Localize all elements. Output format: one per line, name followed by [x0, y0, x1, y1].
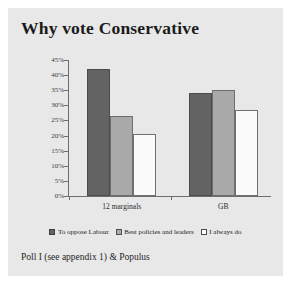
x-axis-line — [68, 196, 271, 197]
y-axis-tick-mark — [64, 196, 68, 197]
y-axis-tick-mark — [64, 60, 68, 61]
y-axis-tick-label: 35% — [24, 86, 64, 94]
legend-swatch-icon — [201, 229, 207, 235]
legend-swatch-icon — [49, 229, 55, 235]
bar-0-group-0 — [87, 69, 110, 196]
y-axis-tick-label: 45% — [24, 56, 64, 64]
figure-caption: Poll I (see appendix 1) & Populus — [21, 252, 150, 262]
bars-area — [69, 60, 271, 196]
bar-1-group-1 — [212, 90, 235, 196]
x-axis-category-label: GB — [218, 202, 228, 211]
y-axis-tick-label: 5% — [24, 177, 64, 185]
chart-legend: To oppose LabourBest policies and leader… — [8, 228, 283, 236]
legend-swatch-icon — [116, 229, 122, 235]
y-axis-tick-label: 0% — [24, 192, 64, 200]
legend-item: Best policies and leaders — [116, 228, 194, 236]
y-axis-tick-label: 10% — [24, 162, 64, 170]
page-title: Why vote Conservative — [21, 18, 199, 39]
bar-1-group-0 — [110, 116, 133, 196]
y-axis-tick-mark — [64, 120, 68, 121]
y-axis-tick-label: 30% — [24, 101, 64, 109]
y-axis-tick-mark — [64, 136, 68, 137]
y-axis-tick-mark — [64, 151, 68, 152]
y-axis-tick-mark — [64, 181, 68, 182]
y-axis-tick-label: 20% — [24, 132, 64, 140]
legend-label: To oppose Labour — [58, 228, 109, 236]
x-axis-tick-mark — [171, 197, 172, 200]
y-axis-tick-label: 25% — [24, 116, 64, 124]
legend-item: To oppose Labour — [49, 228, 108, 236]
y-axis-tick-mark — [64, 105, 68, 106]
legend-label: Best policies and leaders — [124, 228, 193, 236]
bar-2-group-0 — [133, 134, 156, 196]
bar-0-group-1 — [189, 93, 212, 196]
figure-card: Why vote Conservative 0%5%10%15%20%25%30… — [8, 8, 283, 276]
y-axis-tick-mark — [64, 90, 68, 91]
y-axis-tick-mark — [64, 75, 68, 76]
bar-chart-plot: 0%5%10%15%20%25%30%35%40%45% 12 marginal… — [20, 54, 275, 214]
x-axis-tick-mark — [69, 197, 70, 200]
y-axis-tick-mark — [64, 166, 68, 167]
x-axis-category-label: 12 marginals — [102, 202, 141, 211]
bar-2-group-1 — [235, 110, 258, 196]
y-axis-tick-label: 15% — [24, 147, 64, 155]
legend-label: I always do — [209, 228, 241, 236]
legend-item: I always do — [201, 228, 242, 236]
y-axis-tick-label: 40% — [24, 71, 64, 79]
